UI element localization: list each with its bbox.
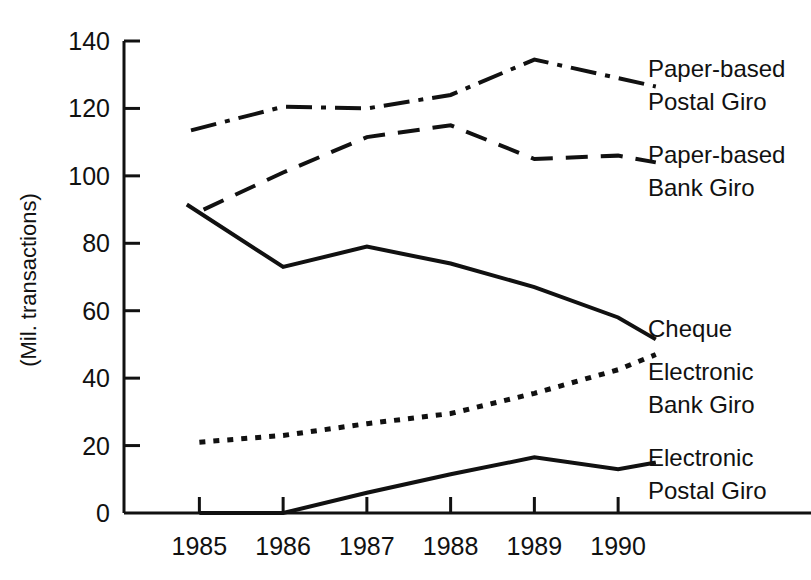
- y-tick-label: 100: [68, 162, 110, 190]
- legend-electronic-bank-giro-line2: Bank Giro: [648, 388, 755, 421]
- series-line-electronic-postal-giro: [199, 457, 655, 513]
- y-tick-label: 140: [68, 27, 110, 55]
- legend-paper-postal-giro-line2: Postal Giro: [648, 85, 785, 118]
- y-tick-label: 80: [82, 229, 110, 257]
- y-tick-label: 20: [82, 432, 110, 460]
- x-axis-ticks: 198519861987198819891990: [172, 497, 646, 560]
- x-tick-label: 1985: [172, 532, 228, 560]
- legend-cheque: Cheque: [648, 312, 732, 345]
- legend-electronic-postal-giro-line2: Postal Giro: [648, 474, 767, 507]
- legend-paper-bank-giro: Paper-based Bank Giro: [648, 138, 785, 204]
- y-axis-ticks: 020406080100120140: [68, 27, 140, 527]
- y-tick-label: 0: [96, 499, 110, 527]
- legend-electronic-bank-giro-line1: Electronic: [648, 355, 755, 388]
- series-line-paper-based-bank-giro: [204, 125, 656, 209]
- x-tick-label: 1988: [423, 532, 479, 560]
- legend-cheque-line1: Cheque: [648, 312, 732, 345]
- legend-electronic-postal-giro-line1: Electronic: [648, 441, 767, 474]
- series-line-cheque: [187, 205, 656, 340]
- x-tick-label: 1990: [590, 532, 646, 560]
- legend-paper-bank-giro-line1: Paper-based: [648, 138, 785, 171]
- series-line-electronic-bank-giro: [199, 355, 655, 443]
- y-tick-label: 40: [82, 364, 110, 392]
- x-tick-label: 1989: [507, 532, 563, 560]
- legend-paper-postal-giro: Paper-based Postal Giro: [648, 52, 785, 118]
- legend-electronic-postal-giro: Electronic Postal Giro: [648, 441, 767, 507]
- legend-electronic-bank-giro: Electronic Bank Giro: [648, 355, 755, 421]
- series-line-paper-based-postal-giro: [191, 60, 656, 131]
- y-tick-label: 120: [68, 94, 110, 122]
- x-tick-label: 1986: [255, 532, 311, 560]
- x-tick-label: 1987: [339, 532, 395, 560]
- legend-paper-postal-giro-line1: Paper-based: [648, 52, 785, 85]
- y-tick-label: 60: [82, 297, 110, 325]
- legend-paper-bank-giro-line2: Bank Giro: [648, 171, 785, 204]
- data-series-group: [187, 60, 656, 513]
- line-chart: 020406080100120140 198519861987198819891…: [0, 0, 811, 580]
- y-axis-title: (Mil. transactions): [16, 193, 41, 367]
